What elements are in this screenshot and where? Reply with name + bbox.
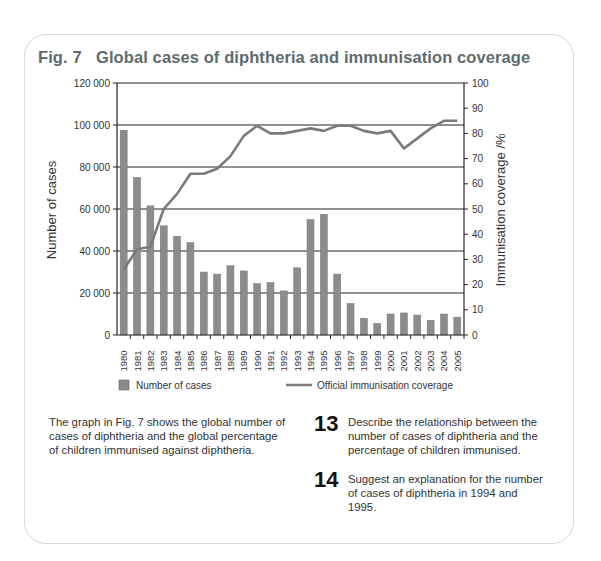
x-tick-label: 2005 [452,350,463,371]
bar-1990 [254,284,261,335]
x-tick-label: 1999 [372,350,383,371]
bar-1981 [134,178,141,336]
x-tick-label: 1994 [305,350,316,371]
x-tick-label: 1995 [318,350,329,371]
x-tick-label: 1996 [332,350,343,371]
y-tick-label-right: 90 [472,103,484,114]
question-number-13: 13 [314,411,338,437]
legend: Number of cases Official immunisation co… [119,380,453,391]
x-tick-label: 2003 [425,350,436,371]
bar-1987 [214,274,221,335]
bar-1985 [187,243,194,335]
bar-1997 [347,304,354,336]
y-tick-label-right: 70 [472,153,484,164]
x-tick-label: 1991 [265,350,276,371]
bar-2003 [427,320,434,335]
bars-number-of-cases [120,130,461,335]
bar-1988 [227,266,234,335]
question-text-14: Suggest an explanation for the number of… [348,472,548,514]
legend-label-coverage: Official immunisation coverage [317,380,453,391]
bar-1994 [307,220,314,336]
x-tick-label: 1985 [185,350,196,371]
bar-1995 [320,214,327,335]
y-tick-label-right: 50 [472,204,484,215]
bar-2005 [454,317,461,335]
bar-2004 [440,314,447,335]
y-tick-label-left: 60 000 [79,204,110,215]
x-tick-label: 1980 [118,350,129,371]
y-tick-label-left: 0 [104,330,110,341]
y-tick-label-right: 60 [472,178,484,189]
legend-label-cases: Number of cases [136,380,212,391]
y-tick-label-left: 80 000 [79,162,110,173]
x-tick-label: 1984 [172,350,183,371]
y-tick-label-right: 100 [472,78,489,89]
bar-1999 [374,323,381,335]
intro-paragraph: The graph in Fig. 7 shows the global num… [49,415,289,457]
x-tick-label: 1990 [252,350,263,371]
bar-2002 [414,315,421,335]
x-tick-label: 1992 [278,350,289,371]
x-tick-label: 1981 [132,350,143,371]
bar-1980 [120,130,127,335]
x-tick-label: 1998 [358,350,369,371]
question-number-14: 14 [314,467,338,493]
x-tick-label: 1986 [198,350,209,371]
y-tick-label-right: 80 [472,128,484,139]
x-tick-label: 1983 [158,350,169,371]
bar-1993 [294,268,301,335]
y-axis-label-right: Immunisation coverage /% [493,133,508,287]
x-tick-label: 1997 [345,350,356,371]
question-text-13: Describe the relationship between the nu… [348,415,548,457]
y-tick-label-left: 100 000 [74,120,111,131]
bar-2000 [387,314,394,335]
bar-1983 [160,226,167,335]
x-tick-label: 1989 [238,350,249,371]
bar-1986 [200,272,207,335]
gridlines [117,83,464,293]
x-tick-label: 2002 [412,350,423,371]
bar-1992 [280,291,287,335]
x-tick-label: 2004 [438,350,449,371]
bar-1991 [267,283,274,336]
bar-1996 [334,274,341,335]
legend-swatch-bar [119,380,129,390]
bar-1989 [240,271,247,335]
x-tick-label: 1988 [225,350,236,371]
bar-1984 [174,236,181,335]
bar-1998 [360,318,367,335]
y-tick-label-right: 20 [472,279,484,290]
y-tick-label-left: 20 000 [79,288,110,299]
y-tick-label-right: 40 [472,229,484,240]
y-tick-label-right: 30 [472,254,484,265]
y-tick-label-right: 10 [472,304,484,315]
bar-2001 [400,313,407,335]
x-tick-label: 2000 [385,350,396,371]
y-axis-label-left: Number of cases [44,160,59,259]
y-tick-label-left: 120 000 [74,78,111,89]
x-tick-label: 1993 [292,350,303,371]
x-tick-label: 1982 [145,350,156,371]
x-tick-label: 1987 [212,350,223,371]
y-tick-label-right: 0 [472,330,478,341]
y-tick-label-left: 40 000 [79,246,110,257]
x-tick-label: 2001 [398,350,409,371]
bar-1982 [147,206,154,335]
